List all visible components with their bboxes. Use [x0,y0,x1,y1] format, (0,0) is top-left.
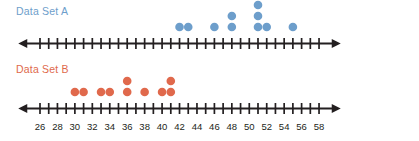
data-point-dot [228,23,237,32]
axis-tick-label: 54 [279,121,290,132]
data-point-dot [97,88,106,97]
data-point-dot [228,12,237,21]
data-set-a-label: Data Set A [16,5,68,17]
axis-tick-label: 38 [139,121,150,132]
axis-tick-label: 42 [174,121,185,132]
data-point-dot [184,23,193,32]
data-point-dot [262,23,271,32]
axis-tick-label: 58 [314,121,325,132]
axis-left-arrow-icon [18,104,27,113]
data-point-dot [123,77,132,86]
axis-right-arrow-icon [332,39,341,48]
axis-tick-label: 32 [87,121,98,132]
data-point-dot [105,88,114,97]
axis-tick-label: 36 [122,121,133,132]
data-point-dot [254,1,263,10]
axis-tick-label: 56 [296,121,307,132]
data-point-dot [254,23,263,32]
axis-tick-label: 34 [104,121,115,132]
data-set-b-plot: 2628303234363840424446485052545658 [18,77,340,132]
data-point-dot [71,88,80,97]
data-point-dot [79,88,88,97]
axis-tick-label: 44 [192,121,203,132]
axis-tick-label: 50 [244,121,255,132]
axis-tick-label: 28 [52,121,63,132]
axis-tick-label: 52 [261,121,272,132]
axis-tick-label: 26 [35,121,46,132]
data-point-dot [158,88,167,97]
data-point-dot [123,88,132,97]
dot-plot-figure: Data Set A Data Set B 262830323436384042… [0,0,419,141]
data-set-b-label: Data Set B [16,63,69,75]
axis-tick-label: 40 [157,121,168,132]
axis-tick-label: 48 [227,121,238,132]
axis-right-arrow-icon [332,104,341,113]
data-point-dot [210,23,219,32]
axis-tick-label: 30 [70,121,81,132]
data-point-dot [167,88,176,97]
dot-plot-svg: Data Set A Data Set B 262830323436384042… [0,0,419,141]
data-point-dot [254,12,263,21]
data-point-dot [140,88,149,97]
data-point-dot [175,23,184,32]
axis-left-arrow-icon [18,39,27,48]
data-point-dot [289,23,298,32]
data-point-dot [167,77,176,86]
axis-tick-label: 46 [209,121,220,132]
